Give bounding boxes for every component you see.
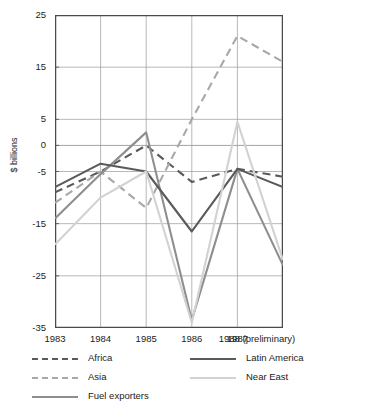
y-tick-label: -35 [12, 322, 46, 333]
legend-swatch-icon [32, 396, 78, 398]
chart-title: CURRENT ACCOUNT BALANCES 1983-88 [0, 0, 367, 2]
y-tick-label: 15 [12, 61, 46, 72]
legend-label: Near East [246, 371, 288, 382]
y-tick-label: 0 [12, 139, 46, 150]
series-line-fuel-exporters [55, 132, 283, 320]
y-tick-label: -15 [12, 218, 46, 229]
legend-swatch-icon [32, 377, 78, 379]
legend-label: Latin America [246, 352, 304, 363]
chart-container: CURRENT ACCOUNT BALANCES 1983-88 $ billi… [0, 0, 367, 410]
y-tick-label: -5 [12, 166, 46, 177]
y-axis-label: $ billions [9, 120, 19, 190]
series-line-latin-america [55, 164, 283, 232]
y-tick-label: -25 [12, 270, 46, 281]
x-tick-label: 1988 (preliminary) [207, 333, 307, 344]
legend-label: Fuel exporters [88, 390, 149, 401]
plot-area [55, 15, 283, 328]
plot-svg [55, 15, 283, 328]
legend-swatch-icon [190, 377, 236, 379]
chart-legend: AfricaLatin AmericaAsiaNear EastFuel exp… [0, 352, 367, 410]
y-tick-label: 5 [12, 113, 46, 124]
legend-label: Africa [88, 352, 112, 363]
legend-label: Asia [88, 371, 106, 382]
legend-swatch-icon [190, 358, 236, 360]
series-line-asia [55, 36, 283, 208]
y-tick-label: 25 [12, 9, 46, 20]
legend-swatch-icon [32, 358, 78, 360]
